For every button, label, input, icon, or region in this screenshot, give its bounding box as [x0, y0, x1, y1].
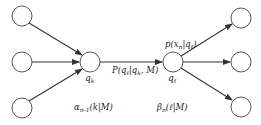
node-left-bot: [12, 98, 32, 118]
emission-pre: p(x: [165, 39, 179, 49]
node-qk: [80, 52, 100, 72]
transition-post: , M): [141, 65, 158, 75]
diagram-canvas: [0, 0, 261, 125]
emission-mid: |q: [182, 39, 190, 49]
edge-ql-to-right-bot: [181, 68, 232, 100]
transition-pre: P(q: [112, 65, 126, 75]
label-emission-prob: p(xn|qℓ): [165, 40, 197, 50]
qk-sub: k: [91, 77, 95, 84]
node-ql: [163, 52, 183, 72]
node-right-top: [231, 8, 251, 28]
label-transition-prob: P(qℓ|qk, M): [112, 66, 158, 76]
edge-left-bot-to-qk: [29, 69, 82, 101]
ql-sub: ℓ: [174, 77, 177, 84]
node-left-mid: [12, 52, 32, 72]
label-ql: qℓ: [168, 74, 176, 84]
node-right-mid: [231, 52, 251, 72]
emission-post: ): [193, 39, 196, 49]
label-beta: βn(ℓ|M): [157, 103, 188, 113]
edge-left-top-to-qk: [29, 23, 82, 55]
trellis-diagram: qk qℓ P(qℓ|qk, M) p(xn|qℓ) αn-1(k|M) βn(…: [0, 0, 261, 125]
alpha-post: (k|M): [89, 102, 112, 112]
node-right-bot: [231, 97, 251, 117]
node-left-top: [12, 6, 32, 26]
label-qk: qk: [85, 74, 94, 84]
alpha-sub: n-1: [80, 106, 90, 113]
beta-post: (ℓ|M): [166, 102, 188, 112]
label-alpha: αn-1(k|M): [74, 103, 113, 113]
